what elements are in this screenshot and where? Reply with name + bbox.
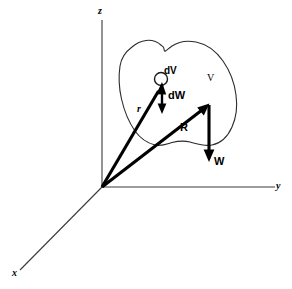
x-axis-line	[20, 187, 102, 270]
axis-label-z: z	[98, 6, 102, 16]
region-label-V: V	[207, 73, 214, 83]
vector-diagram-figure: x y z V dV r R dW W	[0, 0, 292, 289]
axis-label-y: y	[276, 181, 280, 191]
axes-group	[20, 20, 275, 270]
vector-label-R: R	[180, 122, 188, 133]
element-label-dV: dV	[164, 66, 177, 76]
vector-label-dW: dW	[168, 90, 185, 101]
vector-label-r: r	[137, 104, 141, 114]
vector-R	[102, 104, 210, 188]
vector-W	[204, 105, 215, 162]
vector-label-W: W	[214, 156, 224, 167]
diagram-canvas	[0, 0, 292, 289]
vector-r	[102, 82, 166, 187]
axis-label-x: x	[12, 268, 17, 278]
